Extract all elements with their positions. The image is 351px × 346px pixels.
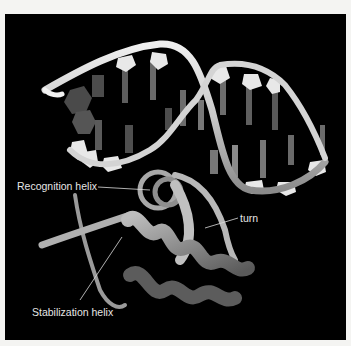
stabilization-helix-label: Stabilization helix — [32, 307, 113, 318]
molecular-structure-illustration — [0, 0, 351, 346]
turn-label: turn — [240, 213, 258, 224]
protein-structure — [42, 172, 248, 307]
recognition-helix-label: Recognition helix — [17, 181, 97, 192]
dna-base-pairs — [64, 58, 325, 178]
